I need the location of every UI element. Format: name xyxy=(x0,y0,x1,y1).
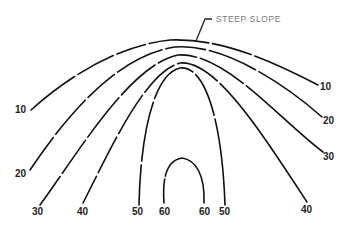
contour-label-20-right: 20 xyxy=(323,115,335,126)
contour-label-40-right: 40 xyxy=(301,204,313,215)
steep-slope-label: STEEP SLOPE xyxy=(216,14,281,24)
contour-label-30-left: 30 xyxy=(32,206,44,217)
contour-line-10 xyxy=(31,40,318,110)
contour-line-50 xyxy=(139,68,225,205)
contour-diagram: STEEP SLOPE 10 20 30 40 50 60 60 50 40 3… xyxy=(0,0,349,235)
contour-label-60-right: 60 xyxy=(199,206,211,217)
contour-label-20-left: 20 xyxy=(15,168,27,179)
contour-label-50-right: 50 xyxy=(219,206,231,217)
contour-label-60-left: 60 xyxy=(159,206,171,217)
contour-label-40-left: 40 xyxy=(77,206,89,217)
contour-line-60 xyxy=(164,158,204,203)
annotation-leader-line xyxy=(196,19,212,41)
contour-line-40 xyxy=(83,63,307,203)
contour-label-10-right: 10 xyxy=(320,81,332,92)
contour-line-30 xyxy=(40,55,323,205)
contour-label-50-left: 50 xyxy=(132,206,144,217)
contour-label-30-right: 30 xyxy=(323,151,335,162)
contour-label-10-left: 10 xyxy=(15,104,27,115)
